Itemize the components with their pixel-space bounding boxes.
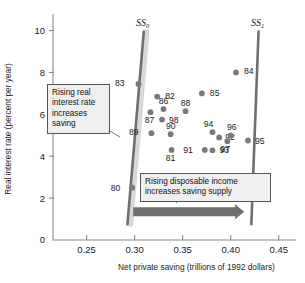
annotation-rising-real-interest-rate: Rising real interest rate increases savi… xyxy=(47,84,110,134)
x-tick-label: 0.30 xyxy=(125,244,144,255)
data-point-91 xyxy=(202,147,208,153)
x-tick-label: 0.45 xyxy=(269,244,288,255)
y-axis-title: Real interest rate (percent per year) xyxy=(3,63,13,195)
data-point-96 xyxy=(228,132,234,138)
data-point-label-98: 98 xyxy=(169,115,179,125)
y-tick-label: 0 xyxy=(40,234,45,245)
x-tick-label: 0.40 xyxy=(221,244,240,255)
data-point-label-83: 83 xyxy=(115,78,125,88)
supply-curve-label-ss1: SS1 xyxy=(251,17,264,30)
scatter-plot: 02468100.250.300.350.400.45 SS0SS1 80818… xyxy=(0,0,305,283)
data-point-label-88: 88 xyxy=(181,98,191,108)
y-tick-label: 8 xyxy=(40,67,45,78)
data-point-85 xyxy=(199,90,205,96)
data-point-84 xyxy=(233,70,239,76)
data-point-label-81: 81 xyxy=(166,153,176,163)
x-axis-title: Net private saving (trillions of 1992 do… xyxy=(118,262,275,272)
shift-arrow xyxy=(133,204,244,219)
data-point-83 xyxy=(136,81,142,87)
data-point-label-95: 95 xyxy=(255,136,265,146)
x-tick-label: 0.25 xyxy=(77,244,96,255)
supply-curve-label-ss0: SS0 xyxy=(136,17,150,30)
data-point-86 xyxy=(161,106,167,112)
data-point-95 xyxy=(245,138,251,144)
x-tick-label: 0.35 xyxy=(173,244,192,255)
data-point-label-91: 91 xyxy=(183,145,193,155)
data-point-90 xyxy=(168,131,174,137)
chart-container: 02468100.250.300.350.400.45 SS0SS1 80818… xyxy=(0,0,305,283)
annotation-rising-disposable-income: Rising disposable income increases savin… xyxy=(140,173,271,202)
data-point-label-96: 96 xyxy=(227,122,237,132)
data-point-label-97: 97 xyxy=(221,144,231,154)
y-tick-label: 6 xyxy=(40,109,45,120)
data-point-80 xyxy=(129,185,135,191)
data-point-label-86: 86 xyxy=(159,96,169,106)
data-point-89 xyxy=(149,130,155,136)
y-tick-label: 4 xyxy=(40,151,45,162)
y-tick-label: 10 xyxy=(34,25,45,36)
data-point-label-94: 94 xyxy=(204,119,214,129)
data-point-88 xyxy=(183,108,189,114)
y-tick-label: 2 xyxy=(40,193,45,204)
data-point-label-87: 87 xyxy=(145,115,155,125)
data-point-label-84: 84 xyxy=(244,66,254,76)
data-point-92 xyxy=(216,134,222,140)
data-point-93 xyxy=(210,147,216,153)
data-point-label-85: 85 xyxy=(210,88,220,98)
data-point-label-80: 80 xyxy=(111,183,121,193)
data-point-94 xyxy=(210,129,216,135)
data-point-98 xyxy=(159,117,165,123)
data-point-label-89: 89 xyxy=(129,127,139,137)
